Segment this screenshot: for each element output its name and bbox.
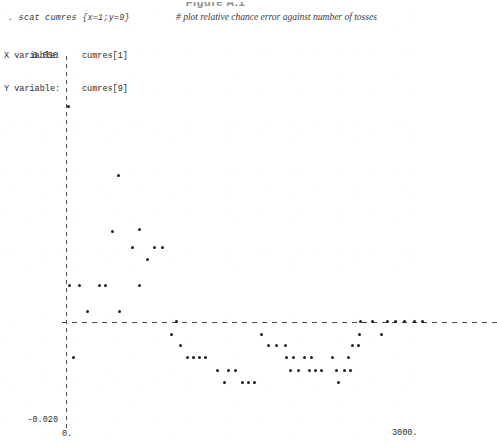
scatter-point (413, 320, 416, 323)
y-axis-min-label: -0.020 (6, 415, 58, 425)
scatter-point (138, 284, 141, 287)
scatter-point (253, 381, 256, 384)
scatter-point (349, 369, 352, 372)
scatter-point (285, 356, 288, 359)
scatter-point (351, 344, 354, 347)
scatter-point (260, 333, 263, 336)
scatter-point (192, 356, 195, 359)
scatter-point (98, 284, 101, 287)
y-axis-line (66, 56, 67, 428)
scatter-point (170, 333, 173, 336)
scatter-point (67, 105, 70, 108)
scatter-point (347, 356, 350, 359)
scatter-point (146, 258, 149, 261)
scatter-point (223, 381, 226, 384)
scatter-point (308, 369, 311, 372)
scatter-point (161, 246, 164, 249)
scatter-point (394, 320, 397, 323)
scatter-plot-area (66, 56, 424, 428)
scatter-point (403, 320, 406, 323)
scatter-point (380, 333, 383, 336)
scatter-point (198, 356, 201, 359)
scatter-point (68, 284, 71, 287)
scatter-point (78, 284, 81, 287)
zero-reference-line (62, 322, 497, 323)
scatter-point (357, 344, 360, 347)
scatter-point (371, 320, 374, 323)
scatter-point (247, 381, 250, 384)
scatter-point (289, 369, 292, 372)
scatter-point (297, 369, 300, 372)
scatter-point (117, 174, 120, 177)
scatter-point (292, 356, 295, 359)
scatter-point (358, 333, 361, 336)
scatter-point (337, 381, 340, 384)
command-line: . scat cumres {x=1;y=9} (8, 13, 130, 23)
scatter-point (131, 246, 134, 249)
scatter-point (111, 230, 114, 233)
scatter-point (386, 320, 389, 323)
scatter-point (421, 320, 424, 323)
y-axis-max-label: 0.050 (12, 51, 58, 61)
scatter-point (314, 369, 317, 372)
x-axis-min-label: 0. (62, 429, 72, 439)
scatter-point (267, 344, 270, 347)
scatter-point (138, 228, 141, 231)
scatter-point (118, 310, 121, 313)
command-comment: # plot relative chance error against num… (176, 12, 377, 22)
scatter-point (310, 356, 313, 359)
scatter-point (335, 369, 338, 372)
scatter-point (227, 369, 230, 372)
scatter-point (320, 369, 323, 372)
scatter-point (284, 344, 287, 347)
scatter-point (303, 356, 306, 359)
scatter-point (275, 344, 278, 347)
scatter-point (241, 381, 244, 384)
scatter-point (331, 356, 334, 359)
scatter-point (104, 284, 107, 287)
scatter-point (234, 369, 237, 372)
scatter-point (186, 356, 189, 359)
x-axis-max-label: 3000. (392, 428, 418, 438)
scatter-point (86, 310, 89, 313)
scatter-point (153, 246, 156, 249)
figure-caption: Figure A.1 (0, 0, 431, 8)
scatter-point (359, 320, 362, 323)
scatter-point (204, 356, 207, 359)
scatter-point (72, 356, 75, 359)
scatter-point (216, 369, 219, 372)
scatter-point (179, 344, 182, 347)
scatter-point (343, 369, 346, 372)
